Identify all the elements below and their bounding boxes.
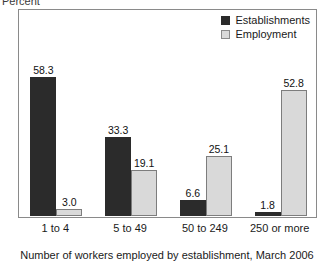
- bar: [131, 170, 157, 216]
- bar: [255, 212, 281, 216]
- bar: [30, 77, 56, 216]
- bar-value-label: 58.3: [33, 65, 53, 76]
- bar-group: 1.852.8: [243, 78, 318, 216]
- bar: [180, 200, 206, 216]
- bar: [56, 209, 82, 216]
- bar-item: 58.3: [30, 65, 56, 216]
- x-axis-tick-labels: 1 to 45 to 4950 to 249250 or more: [18, 222, 317, 238]
- bar-item: 25.1: [206, 144, 232, 216]
- x-axis-tick-label: 1 to 4: [42, 222, 70, 235]
- bar: [206, 156, 232, 216]
- bar-group: 6.625.1: [169, 144, 244, 216]
- bar: [281, 90, 307, 216]
- bar-group: 33.319.1: [94, 125, 169, 216]
- bar-value-label: 25.1: [209, 144, 229, 155]
- bar-value-label: 6.6: [186, 188, 201, 199]
- bar-item: 3.0: [56, 197, 82, 216]
- x-axis-tick-label: 250 or more: [250, 222, 309, 235]
- bar-value-label: 52.8: [283, 78, 303, 89]
- bar-groups: 58.33.033.319.16.625.11.852.8: [19, 10, 316, 217]
- y-axis-label: Percent: [2, 0, 40, 7]
- x-axis-title: Number of workers employed by establishm…: [0, 249, 334, 262]
- bar: [105, 137, 131, 216]
- bar-item: 1.8: [255, 200, 281, 216]
- bar-item: 33.3: [105, 125, 131, 216]
- x-axis-tick-label: 5 to 49: [113, 222, 147, 235]
- bar-group: 58.33.0: [19, 65, 94, 216]
- bar-value-label: 33.3: [108, 125, 128, 136]
- bar-item: 19.1: [131, 158, 157, 216]
- bar-value-label: 1.8: [260, 200, 275, 211]
- bar-value-label: 19.1: [134, 158, 154, 169]
- bar-item: 52.8: [281, 78, 307, 216]
- bar-value-label: 3.0: [62, 197, 77, 208]
- plot-frame: Establishments Employment 58.33.033.319.…: [18, 9, 317, 218]
- x-axis-tick-label: 50 to 249: [182, 222, 228, 235]
- bar-item: 6.6: [180, 188, 206, 216]
